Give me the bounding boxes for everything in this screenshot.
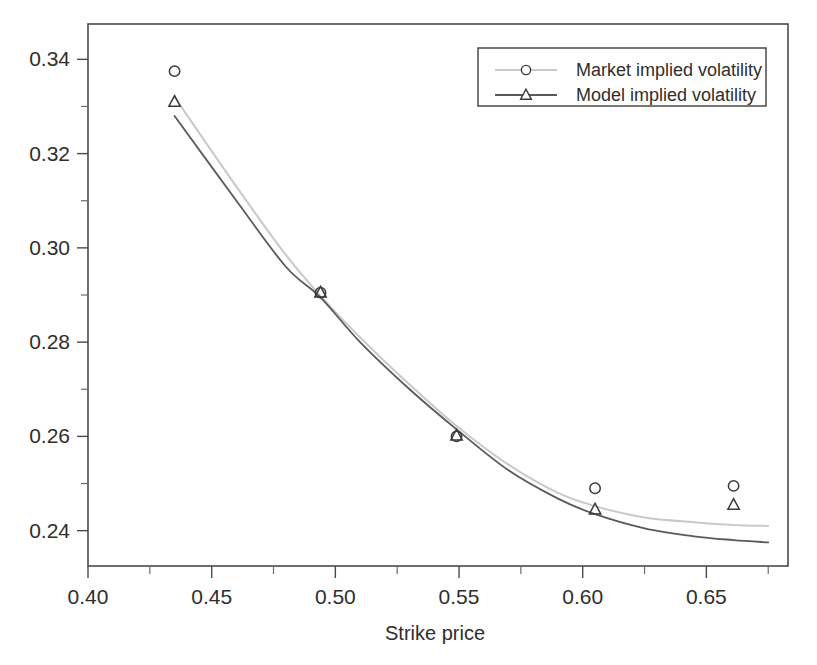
legend-marker-sample (521, 65, 530, 74)
y-tick-label: 0.32 (29, 142, 70, 165)
legend-label: Model implied volatility (576, 85, 756, 105)
x-tick-label: 0.60 (562, 585, 603, 608)
x-tick-label: 0.45 (191, 585, 232, 608)
y-tick-label: 0.24 (29, 519, 70, 542)
chart-legend: Market implied volatilityModel implied v… (478, 48, 766, 106)
x-tick-label: 0.50 (315, 585, 356, 608)
x-tick-label: 0.40 (68, 585, 109, 608)
figure-container: 0.240.260.280.300.320.34 0.400.450.500.5… (0, 0, 817, 665)
y-tick-label: 0.34 (29, 47, 70, 70)
x-tick-label: 0.55 (439, 585, 480, 608)
x-axis-title: Strike price (385, 622, 485, 644)
x-tick-label: 0.65 (686, 585, 727, 608)
y-tick-label: 0.26 (29, 424, 70, 447)
y-tick-label: 0.30 (29, 236, 70, 259)
legend-label: Market implied volatility (576, 60, 762, 80)
implied-volatility-chart: 0.240.260.280.300.320.34 0.400.450.500.5… (0, 0, 817, 665)
y-tick-label: 0.28 (29, 330, 70, 353)
